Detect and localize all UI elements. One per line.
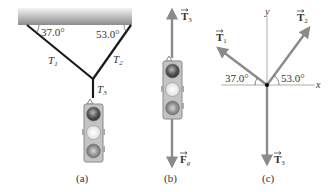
origin-point bbox=[265, 83, 269, 87]
angle-arc-left bbox=[255, 78, 257, 85]
ceiling bbox=[18, 8, 132, 25]
angle-arc-left bbox=[37, 25, 40, 33]
panel-c: x y 37.0° 53.0° T1 T2 T3 (c) bbox=[216, 6, 321, 185]
caption-c: (c) bbox=[262, 172, 275, 185]
physics-diagram: 37.0° 53.0° T1 T2 T3 (a) T3 Fg (b) x y 3… bbox=[0, 0, 330, 192]
angle-left-label: 37.0° bbox=[225, 72, 249, 84]
t2-label: T2 bbox=[113, 53, 123, 67]
caption-a: (a) bbox=[76, 172, 89, 185]
traffic-light-icon bbox=[82, 99, 105, 162]
t2-vector-label: T2 bbox=[297, 11, 308, 25]
panel-a: 37.0° 53.0° T1 T2 T3 (a) bbox=[18, 8, 132, 185]
traffic-light-icon bbox=[161, 56, 184, 119]
y-axis-label: y bbox=[264, 6, 270, 17]
panel-b: T3 Fg (b) bbox=[161, 9, 192, 186]
t3-vector-label: T3 bbox=[181, 10, 192, 24]
angle-right-label: 53.0° bbox=[96, 28, 120, 40]
t3-vector-label: T3 bbox=[274, 153, 285, 167]
t3-label: T3 bbox=[97, 83, 107, 97]
t1-label: T1 bbox=[48, 54, 58, 68]
angle-left-label: 37.0° bbox=[41, 26, 65, 38]
caption-b: (b) bbox=[164, 172, 177, 185]
x-axis-label: x bbox=[315, 79, 321, 90]
angle-right-label: 53.0° bbox=[281, 72, 305, 84]
fg-vector-label: Fg bbox=[180, 153, 191, 167]
angle-arc-right bbox=[274, 75, 279, 85]
t1-vector-label: T1 bbox=[216, 31, 227, 45]
